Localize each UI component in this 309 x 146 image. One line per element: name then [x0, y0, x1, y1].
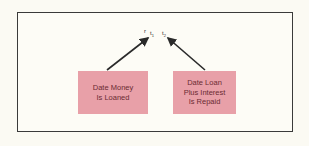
box-line: Date Money	[93, 83, 133, 93]
arrow-to-t2	[168, 38, 205, 70]
box-line: Plus Interest	[184, 88, 226, 98]
box-line: Is Repaid	[184, 97, 226, 107]
arrow-to-t1	[107, 38, 148, 70]
box-line: Is Loaned	[93, 93, 133, 103]
prefix-label: r	[144, 28, 146, 34]
repay-date-box: Date Loan Plus Interest Is Repaid	[173, 71, 236, 114]
arrows	[0, 0, 309, 146]
loan-date-box: Date Money Is Loaned	[78, 71, 148, 114]
box-line: Date Loan	[184, 78, 226, 88]
t1-label: t1	[150, 30, 154, 38]
t2-label: t2	[162, 30, 166, 38]
